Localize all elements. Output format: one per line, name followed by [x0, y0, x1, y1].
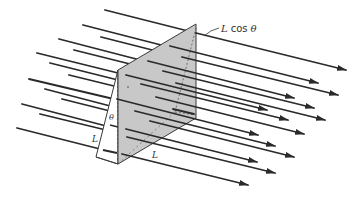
flux-diagram: Lcosθ θ L L [0, 0, 363, 199]
label-l-cos-theta: Lcosθ [220, 23, 257, 34]
label-side-bottom-l: L [151, 150, 158, 160]
label-theta: θ [109, 113, 114, 122]
label-side-left-l: L [91, 134, 98, 144]
